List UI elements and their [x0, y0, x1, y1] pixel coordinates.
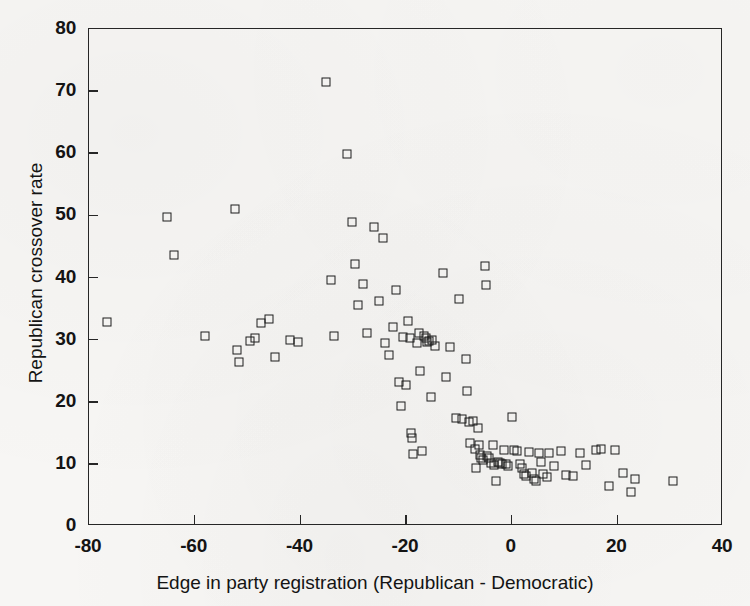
y-tick-label: 70 [16, 79, 76, 101]
y-tick-mark [89, 215, 98, 217]
scatter-point [611, 445, 620, 454]
scatter-point [389, 323, 398, 332]
figure-container: Republican crossover rate 01020304050607… [0, 0, 750, 606]
scatter-point [473, 423, 482, 432]
x-tick-mark [405, 515, 407, 524]
scatter-point [482, 280, 491, 289]
scatter-point [627, 488, 636, 497]
scatter-point [631, 474, 640, 483]
scatter-point [500, 445, 509, 454]
scatter-point [235, 357, 244, 366]
x-tick-label: -60 [180, 535, 207, 557]
scatter-point [669, 477, 678, 486]
scatter-point [270, 353, 279, 362]
scatter-point [163, 213, 172, 222]
scatter-point [358, 280, 367, 289]
x-tick-mark [511, 515, 513, 524]
scatter-point [427, 392, 436, 401]
scatter-point [232, 345, 241, 354]
x-tick-label: -20 [392, 535, 419, 557]
scatter-point [326, 275, 335, 284]
y-tick-label: 20 [16, 390, 76, 412]
x-axis-label: Edge in party registration (Republican -… [0, 572, 750, 594]
scatter-point [462, 354, 471, 363]
scatter-point [342, 150, 351, 159]
y-tick-label: 50 [16, 203, 76, 225]
scatter-point [404, 316, 413, 325]
scatter-point [568, 472, 577, 481]
scatter-point [512, 447, 521, 456]
scatter-point [597, 444, 606, 453]
y-tick-mark [89, 90, 98, 92]
scatter-point [504, 462, 513, 471]
scatter-point [348, 217, 357, 226]
scatter-point [417, 447, 426, 456]
y-tick-mark [89, 277, 98, 279]
scatter-point [537, 458, 546, 467]
scatter-point [446, 343, 455, 352]
scatter-point [169, 251, 178, 260]
scatter-point [488, 441, 497, 450]
y-tick-label: 0 [16, 514, 76, 536]
scatter-point [481, 261, 490, 270]
scatter-point [557, 447, 566, 456]
scatter-point [380, 339, 389, 348]
y-tick-label: 10 [16, 452, 76, 474]
scatter-point [544, 448, 553, 457]
x-tick-label: 20 [606, 535, 627, 557]
scatter-point [392, 285, 401, 294]
scatter-point [330, 331, 339, 340]
scatter-point [524, 448, 533, 457]
scatter-point [507, 412, 516, 421]
scatter-point [549, 462, 558, 471]
scatter-point [250, 334, 259, 343]
scatter-point [581, 461, 590, 470]
y-tick-label: 80 [16, 17, 76, 39]
scatter-point [618, 468, 627, 477]
scatter-point [103, 318, 112, 327]
y-tick-mark [89, 152, 98, 154]
scatter-point [430, 341, 439, 350]
x-tick-label: 40 [712, 535, 733, 557]
scatter-point [396, 402, 405, 411]
scatter-point [321, 78, 330, 87]
scatter-point [542, 472, 551, 481]
scatter-point [201, 331, 210, 340]
y-tick-mark [89, 339, 98, 341]
scatter-point [438, 268, 447, 277]
scatter-point [231, 205, 240, 214]
scatter-point [408, 433, 417, 442]
x-tick-mark [617, 515, 619, 524]
scatter-point [370, 222, 379, 231]
scatter-point [535, 448, 544, 457]
y-tick-mark [89, 463, 98, 465]
x-tick-label: -40 [286, 535, 313, 557]
y-tick-label: 30 [16, 328, 76, 350]
x-tick-label: -80 [75, 535, 102, 557]
scatter-point [354, 301, 363, 310]
scatter-point [576, 448, 585, 457]
x-tick-label: 0 [505, 535, 515, 557]
x-tick-mark [194, 515, 196, 524]
scatter-point [402, 380, 411, 389]
scatter-point [491, 476, 500, 485]
y-tick-mark [89, 401, 98, 403]
scatter-point [442, 372, 451, 381]
scatter-point [385, 350, 394, 359]
x-tick-mark [300, 515, 302, 524]
scatter-point [604, 482, 613, 491]
scatter-point [415, 366, 424, 375]
scatter-point [374, 297, 383, 306]
scatter-point [378, 233, 387, 242]
y-tick-label: 40 [16, 266, 76, 288]
scatter-point [474, 441, 483, 450]
y-tick-label: 60 [16, 141, 76, 163]
scatter-point [264, 314, 273, 323]
scatter-point [294, 338, 303, 347]
plot-area [88, 28, 722, 525]
scatter-point [463, 386, 472, 395]
scatter-point [351, 260, 360, 269]
scatter-point [362, 328, 371, 337]
scatter-point [454, 294, 463, 303]
